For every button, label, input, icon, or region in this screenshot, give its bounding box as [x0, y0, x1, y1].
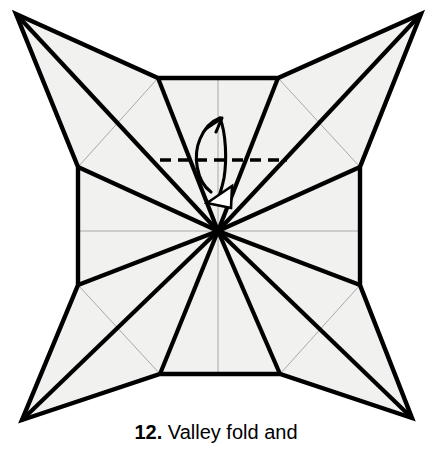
origami-diagram-canvas: [0, 0, 432, 452]
step-number: 12.: [134, 421, 162, 444]
step-caption: 12. Valley fold and: [0, 415, 432, 449]
step-instruction-text: Valley fold and: [162, 421, 297, 444]
origami-diagram-figure: 12. Valley fold and: [0, 0, 432, 452]
